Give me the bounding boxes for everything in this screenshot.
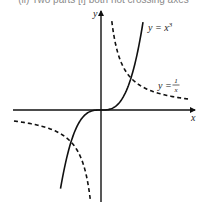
svg-text:y =: y = [157,80,172,91]
reciprocal-curve-lower [14,121,90,199]
graph: y x y = x3 y = 1 x [0,0,207,207]
cubic-curve [61,22,144,189]
y-axis-label: y [92,8,98,19]
x-axis-label: x [190,112,196,123]
cubic-label: y = x3 [147,21,173,33]
reciprocal-label: y = 1 x [157,77,180,94]
svg-text:1: 1 [174,77,178,85]
svg-text:x: x [173,86,178,94]
